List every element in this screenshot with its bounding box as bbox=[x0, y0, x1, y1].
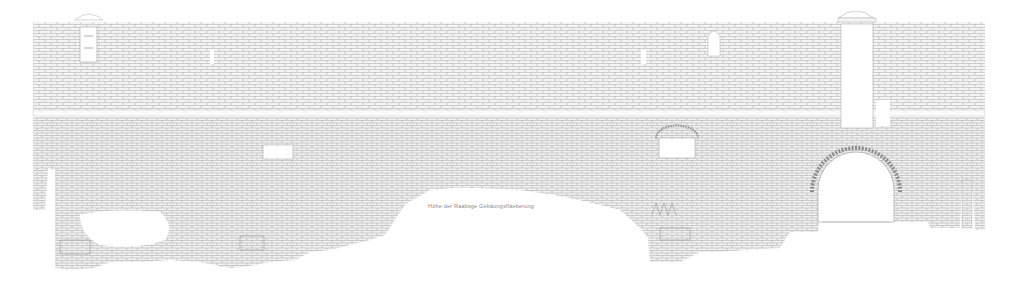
left-dome bbox=[75, 14, 103, 20]
arch-opening bbox=[812, 148, 900, 222]
right-pillar bbox=[962, 180, 972, 228]
elevation-drawing: Höhe der Raabsge Gebäungsfläeberung bbox=[0, 0, 1012, 299]
height-annotation: Höhe der Raabsge Gebäungsfläeberung bbox=[428, 203, 534, 209]
masonry-wall-svg bbox=[0, 0, 1012, 299]
